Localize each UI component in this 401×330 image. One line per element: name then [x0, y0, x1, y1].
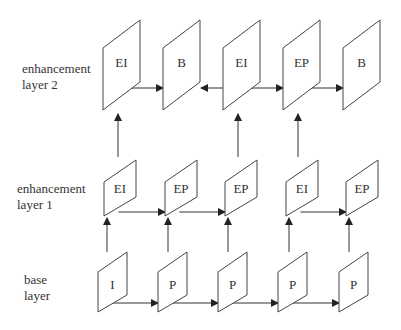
frame-enhancement2-0: EI — [103, 20, 140, 110]
frame-type-label: EP — [294, 55, 309, 70]
frame-type-label: EP — [354, 181, 369, 196]
frame-enhancement1-1: EP — [165, 160, 197, 216]
frame-type-label: EP — [233, 181, 248, 196]
frame-type-label: P — [169, 277, 176, 292]
frame-type-label: P — [350, 277, 357, 292]
frame-enhancement2-4: B — [343, 20, 380, 110]
frame-enhancement1-3: EI — [286, 160, 318, 216]
frame-type-label: EP — [173, 181, 188, 196]
frame-type-label: B — [177, 55, 186, 70]
frame-enhancement2-1: B — [163, 20, 200, 110]
frame-type-label: EI — [235, 55, 247, 70]
frame-type-label: EI — [296, 181, 308, 196]
frame-enhancement2-2: EI — [223, 20, 260, 110]
frame-type-label: B — [357, 55, 366, 70]
frame-type-label: P — [289, 277, 296, 292]
frame-type-label: EI — [114, 181, 126, 196]
frame-enhancement1-0: EI — [104, 160, 136, 216]
scalable-coding-diagram: EIBEIEPBEIEPEPEIEPIPPPP — [0, 0, 401, 330]
frame-enhancement1-4: EP — [346, 160, 378, 216]
frame-enhancement1-2: EP — [225, 160, 257, 216]
frame-type-label: I — [110, 277, 114, 292]
frame-type-label: EI — [115, 55, 127, 70]
frame-base-4: P — [339, 252, 368, 312]
frame-enhancement2-3: EP — [283, 20, 320, 110]
frame-type-label: P — [229, 277, 236, 292]
